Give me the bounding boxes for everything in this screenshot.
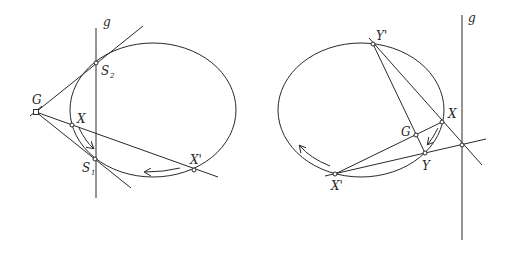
- label-X: X: [447, 107, 457, 121]
- point-X: [70, 123, 74, 127]
- label-S2-sub: 2: [109, 72, 115, 80]
- label-S1: S: [82, 161, 90, 175]
- right-figure: g Y' X G Y X': [278, 11, 486, 240]
- diagram-canvas: g G S 2 S 1 X X' g Y' X G Y X': [0, 0, 509, 253]
- label-X: X: [76, 112, 86, 126]
- point-intersection: [460, 143, 464, 147]
- tangent-line-s2: [36, 26, 143, 112]
- arrow-xp: [300, 146, 330, 166]
- line-yp-x: [369, 38, 482, 165]
- label-G: G: [32, 93, 42, 107]
- secant-line: [36, 112, 218, 177]
- arrow-x-to-y: [428, 128, 438, 144]
- point-X: [440, 120, 444, 124]
- label-g: g: [103, 15, 111, 29]
- point-G: [414, 133, 418, 137]
- arrow-x-to-s1: [79, 128, 93, 148]
- arrow-xp: [145, 168, 180, 172]
- point-S2: [94, 61, 98, 65]
- label-g: g: [468, 11, 476, 25]
- label-Yp: Y': [376, 29, 387, 43]
- ellipse: [278, 43, 444, 177]
- point-Y: [423, 151, 427, 155]
- point-Xp: [333, 172, 337, 176]
- left-figure: g G S 2 S 1 X X': [30, 15, 236, 198]
- point-S1: [93, 157, 97, 161]
- label-Xp: X': [189, 153, 202, 167]
- label-S1-sub: 1: [91, 169, 95, 177]
- label-Y: Y: [422, 159, 431, 173]
- label-Xp: X': [330, 179, 343, 193]
- point-G: [34, 110, 39, 115]
- point-Xp: [192, 168, 196, 172]
- label-G: G: [401, 125, 411, 139]
- label-S2: S: [101, 64, 109, 78]
- point-Yp: [371, 42, 375, 46]
